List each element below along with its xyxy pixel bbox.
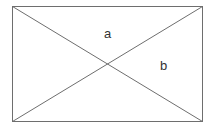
- label-a: a: [104, 26, 112, 41]
- diagram-canvas: a b: [0, 0, 213, 129]
- label-b: b: [160, 58, 167, 73]
